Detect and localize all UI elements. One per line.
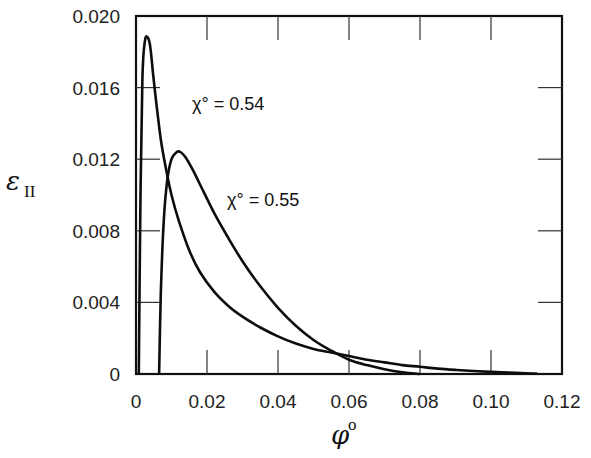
y-tick-label: 0.012 (72, 149, 120, 170)
axis-ticks (136, 16, 562, 374)
y-tick-label: 0 (109, 364, 120, 385)
x-tick-label: 0.04 (260, 391, 297, 412)
svg-text:ε: ε (6, 166, 20, 196)
y-tick-label: 0.020 (72, 6, 120, 27)
x-axis-label: φ o (331, 415, 357, 450)
curve-chi-054 (139, 36, 537, 374)
x-tick-label: 0.08 (402, 391, 439, 412)
y-tick-label: 0.008 (72, 221, 120, 242)
x-tick-label: 0.06 (331, 391, 368, 412)
x-tick-labels: 00.020.040.060.080.100.12 (131, 391, 581, 412)
y-axis-label: ε II (6, 166, 36, 201)
x-tick-label: 0.12 (544, 391, 581, 412)
plot-frame (136, 16, 562, 374)
x-tick-label: 0.10 (473, 391, 510, 412)
plot-border (136, 16, 562, 374)
svg-text:II: II (24, 182, 36, 201)
curve-label-054: χ° = 0.54 (192, 94, 264, 114)
curves (139, 36, 537, 374)
y-tick-label: 0.016 (72, 78, 120, 99)
x-tick-label: 0 (131, 391, 142, 412)
y-tick-label: 0.004 (72, 292, 120, 313)
chart: 00.020.040.060.080.100.12 00.0040.0080.0… (0, 0, 591, 458)
svg-text:o: o (348, 415, 357, 434)
curve-label-055: χ° = 0.55 (227, 190, 299, 210)
x-tick-label: 0.02 (189, 391, 226, 412)
y-tick-labels: 00.0040.0080.0120.0160.020 (72, 6, 120, 385)
